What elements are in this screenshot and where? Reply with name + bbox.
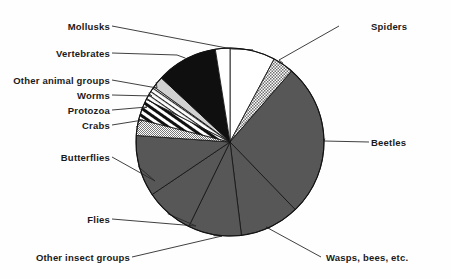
leader-line-worms: [112, 93, 152, 96]
leader-line-vertebrates: [112, 53, 185, 58]
slice-label-worms: Worms: [77, 90, 110, 101]
leader-line-mollusks: [112, 26, 253, 50]
slice-label-vertebrates: Vertebrates: [56, 48, 110, 59]
leader-line-spiders: [279, 26, 339, 63]
slice-label-other-insect-groups: Other insect groups: [36, 252, 130, 263]
slice-label-protozoa: Protozoa: [68, 105, 110, 116]
slice-label-spiders: Spiders: [371, 21, 407, 32]
slice-label-butterflies: Butterflies: [61, 152, 110, 163]
leader-line-other-insect-groups: [132, 236, 222, 257]
slice-label-flies: Flies: [87, 214, 110, 225]
slice-label-beetles: Beetles: [371, 137, 406, 148]
slice-label-other-animal-groups: Other animal groups: [13, 75, 110, 86]
leader-line-beetles: [324, 139, 369, 142]
slice-label-mollusks: Mollusks: [68, 21, 110, 32]
leader-line-other-animal-groups: [112, 80, 157, 88]
slice-label-wasps-bees: Wasps, bees, etc.: [326, 252, 408, 263]
leader-line-wasps-bees: [266, 227, 321, 257]
pie-slices-group: [136, 48, 324, 236]
slice-label-crabs: Crabs: [82, 120, 110, 131]
pie-chart-figure: Mollusks Vertebrates Other animal groups…: [0, 0, 451, 279]
